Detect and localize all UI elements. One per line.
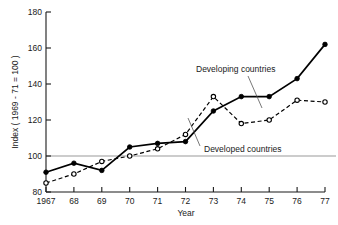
data-point	[323, 42, 328, 47]
data-point	[239, 121, 243, 125]
y-tick-label: 120	[28, 115, 42, 125]
data-point	[128, 154, 132, 158]
x-tick-label: 71	[153, 196, 163, 206]
annotation-label: Developed countries	[204, 144, 282, 154]
x-tick-label: 73	[209, 196, 219, 206]
x-axis-title: Year	[177, 208, 194, 218]
data-point	[155, 141, 160, 146]
y-tick-label: 140	[28, 79, 42, 89]
data-point	[239, 94, 244, 99]
x-tick-label: 70	[125, 196, 135, 206]
data-point	[267, 94, 272, 99]
data-point	[72, 172, 76, 176]
chart-container: 18016014012010080 1967686970717273747576…	[0, 0, 338, 225]
data-point	[155, 147, 159, 151]
data-point	[127, 145, 132, 150]
y-axis-title: Index ( 1969 - 71 = 100 )	[10, 55, 20, 148]
chart-background	[0, 0, 338, 225]
data-point	[183, 132, 187, 136]
y-tick-label: 100	[28, 151, 42, 161]
x-tick-label: 77	[320, 196, 330, 206]
data-point	[100, 168, 105, 173]
x-tick-label: 74	[237, 196, 247, 206]
data-point	[100, 159, 104, 163]
x-tick-label: 69	[97, 196, 107, 206]
data-point	[44, 170, 49, 175]
line-chart: 18016014012010080 1967686970717273747576…	[0, 0, 338, 225]
data-point	[211, 109, 216, 114]
data-point	[211, 94, 215, 98]
data-point	[295, 98, 299, 102]
data-point	[267, 118, 271, 122]
x-tick-label: 1967	[37, 196, 56, 206]
x-tick-label: 72	[181, 196, 191, 206]
y-tick-label: 160	[28, 43, 42, 53]
y-tick-label: 180	[28, 7, 42, 17]
data-point	[295, 76, 300, 81]
x-tick-label: 68	[69, 196, 79, 206]
data-point	[72, 161, 77, 166]
annotation-label: Developing countries	[196, 64, 275, 74]
data-point	[44, 181, 48, 185]
data-point	[323, 100, 327, 104]
x-tick-label: 76	[292, 196, 302, 206]
x-tick-label: 75	[264, 196, 274, 206]
data-point	[183, 139, 188, 144]
